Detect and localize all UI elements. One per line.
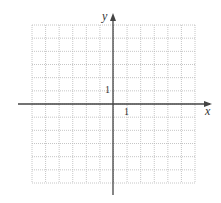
- y-unit-label: 1: [105, 85, 110, 95]
- grid-svg: [0, 0, 221, 203]
- coordinate-plane: y x 1 1: [0, 0, 221, 203]
- x-axis-label: x: [205, 105, 210, 117]
- y-axis-arrow-icon: [110, 13, 116, 21]
- y-axis-label: y: [102, 10, 107, 22]
- x-unit-label: 1: [124, 107, 129, 117]
